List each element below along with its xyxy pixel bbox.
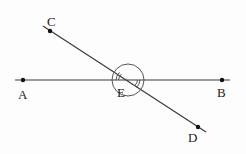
label-B: B [217, 85, 226, 100]
line-CD [43, 26, 206, 132]
label-D: D [188, 130, 197, 145]
point-C [48, 29, 52, 33]
diagram-canvas: C A E B D [0, 0, 246, 154]
point-B [220, 78, 224, 82]
label-C: C [47, 14, 56, 29]
angle-double-arc-mark-opposite-inner [135, 80, 138, 86]
point-A [21, 78, 25, 82]
label-E: E [117, 85, 125, 100]
label-A: A [18, 87, 28, 102]
point-D [196, 125, 200, 129]
geometry-diagram: C A E B D [0, 0, 246, 154]
